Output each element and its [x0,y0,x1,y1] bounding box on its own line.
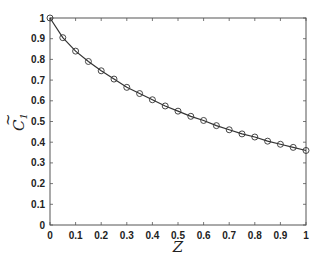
plot-frame [50,18,306,225]
y-tick-label: 0.7 [31,75,45,86]
x-tick-label: 0.1 [69,230,83,241]
y-tick-label: 0.5 [31,116,45,127]
y-tick-label: 0.1 [31,199,45,210]
y-tick-label: 0.3 [31,157,45,168]
x-tick-label: 0.7 [222,230,236,241]
y-tick-label: 0.2 [31,178,45,189]
x-tick-label: 0.4 [145,230,159,241]
y-tick-label: 0.9 [31,33,45,44]
x-axis-label: Z [172,238,184,256]
x-tick-label: 1 [303,230,309,241]
y-tick-label: 1 [39,13,45,24]
x-tick-label: 0.3 [120,230,134,241]
y-tick-label: 0.4 [31,137,45,148]
x-tick-label: 0.2 [94,230,108,241]
y-tick-label: 0.8 [31,54,45,65]
x-tick-label: 0.6 [197,230,211,241]
y-axis-label: C1 ~ [0,113,29,131]
tilde-mark: ~ [0,113,17,126]
x-tick-label: 0 [47,230,53,241]
data-series [47,15,309,153]
x-tick-label: 0.8 [248,230,262,241]
series-line [50,18,306,150]
y-tick-label: 0.6 [31,95,45,106]
x-tick-label: 0.9 [273,230,287,241]
plot-border [50,18,306,225]
line-chart: 00.10.20.30.40.50.60.70.80.9100.10.20.30… [0,0,322,267]
y-tick-label: 0 [39,220,45,231]
axis-ticks: 00.10.20.30.40.50.60.70.80.9100.10.20.30… [31,13,309,242]
